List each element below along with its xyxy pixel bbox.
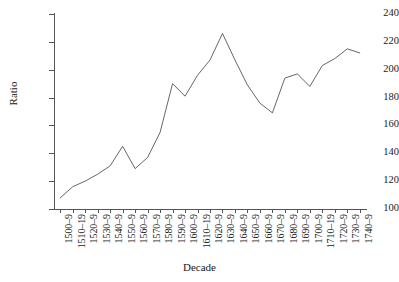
x-tick-label: 1600–9 [189, 214, 199, 243]
x-tick [360, 209, 361, 213]
x-tick-label: 1500–9 [64, 214, 74, 243]
x-tick [235, 209, 236, 213]
x-tick [123, 209, 124, 213]
plot-area [54, 14, 366, 209]
x-tick-label: 1660–9 [264, 214, 274, 243]
x-tick [148, 209, 149, 213]
x-tick [110, 209, 111, 213]
x-tick-label: 1650–9 [251, 214, 261, 243]
x-tick [173, 209, 174, 213]
x-tick [210, 209, 211, 213]
x-tick-label: 1630–9 [226, 214, 236, 243]
x-tick [198, 209, 199, 213]
y-axis-title: Ratio [8, 82, 19, 106]
x-tick-label: 1540–9 [114, 214, 124, 243]
x-tick-label: 1740–9 [364, 214, 374, 243]
x-tick [135, 209, 136, 213]
y-tick [49, 209, 54, 210]
x-tick [85, 209, 86, 213]
x-tick [222, 209, 223, 213]
x-tick-label: 1610–19 [202, 214, 212, 248]
x-tick-label: 1710–19 [326, 214, 336, 248]
x-tick [98, 209, 99, 213]
x-tick [347, 209, 348, 213]
x-tick [260, 209, 261, 213]
x-tick [297, 209, 298, 213]
x-axis-title: Decade [0, 262, 399, 273]
series-polyline [60, 34, 360, 198]
x-tick-label: 1690–9 [301, 214, 311, 243]
x-tick-label: 1590–9 [177, 214, 187, 243]
x-tick-label: 1720–9 [339, 214, 349, 243]
x-tick-label: 1670–9 [276, 214, 286, 243]
x-tick-label: 1560–9 [139, 214, 149, 243]
x-tick [73, 209, 74, 213]
x-tick-label: 1520–9 [89, 214, 99, 243]
x-tick [335, 209, 336, 213]
x-tick [285, 209, 286, 213]
x-tick [310, 209, 311, 213]
x-tick-label: 1550–9 [127, 214, 137, 243]
x-tick-label: 1570–9 [152, 214, 162, 243]
x-tick-label: 1510–19 [77, 214, 87, 248]
x-tick [185, 209, 186, 213]
x-tick [60, 209, 61, 213]
x-tick-label: 1680–9 [289, 214, 299, 243]
x-tick-label: 1730–9 [351, 214, 361, 243]
x-tick [247, 209, 248, 213]
x-tick-label: 1640–9 [239, 214, 249, 243]
ratio-by-decade-chart: Ratio 100120140160180200220240 1500–9151… [0, 0, 399, 282]
ratio-series-line [54, 14, 366, 209]
x-tick-label: 1580–9 [164, 214, 174, 243]
x-tick-label: 1530–9 [102, 214, 112, 243]
x-tick-label: 1700–9 [314, 214, 324, 243]
x-tick [322, 209, 323, 213]
x-tick [160, 209, 161, 213]
x-tick [272, 209, 273, 213]
x-tick-label: 1620–9 [214, 214, 224, 243]
